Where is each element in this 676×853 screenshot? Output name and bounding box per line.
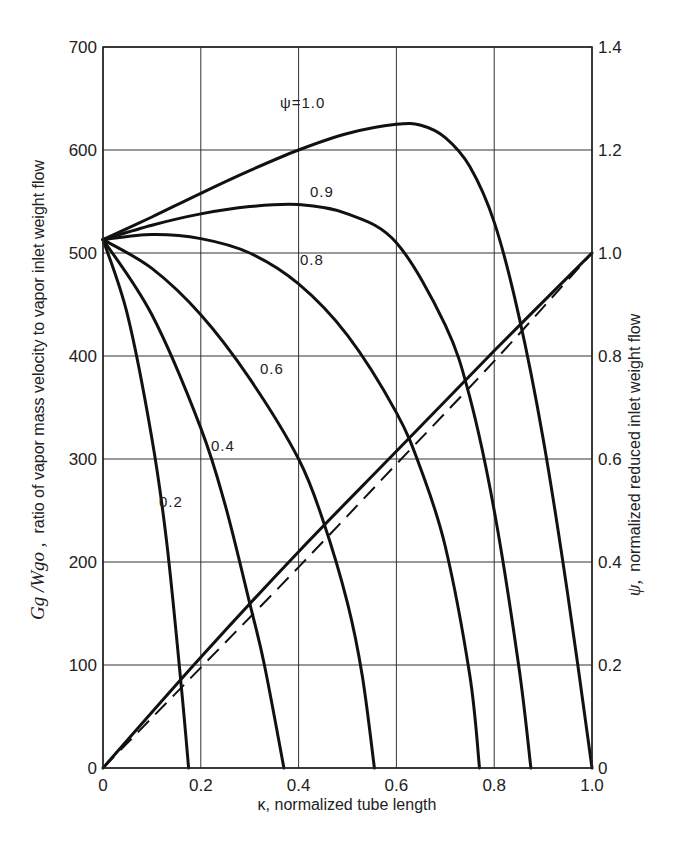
x-tick-label: 1.0 (580, 776, 604, 795)
curve-psi-0-4 (103, 240, 284, 768)
right-y-axis-ticks: 00.20.40.60.81.01.21.4 (598, 38, 622, 778)
left-y-axis-text: ratio of vapor mass velocity to vapor in… (30, 160, 47, 534)
right-y-tick-label: 1.0 (598, 244, 622, 263)
svg-text:Gg /Wgo , ratio of vapor: Gg /Wgo , ratio of vapor mass velocity t… (27, 160, 48, 621)
left-y-tick-label: 400 (69, 347, 97, 366)
left-y-tick-label: 600 (69, 141, 97, 160)
left-y-tick-label: 200 (69, 553, 97, 572)
left-y-tick-label: 100 (69, 656, 97, 675)
left-y-tick-label: 0 (88, 759, 97, 778)
left-y-tick-label: 500 (69, 244, 97, 263)
right-y-tick-label: 0.6 (598, 450, 622, 469)
curve-psi-0-9 (103, 204, 531, 768)
psi-line-solid (103, 253, 592, 768)
right-y-tick-label: 0.4 (598, 553, 622, 572)
left-y-tick-label: 700 (69, 38, 97, 57)
x-tick-label: 0.6 (385, 776, 409, 795)
right-y-axis-text: normalized reduced inlet weight flow (626, 313, 643, 571)
data-curves (103, 123, 592, 768)
right-y-axis-symbol: ψ, (623, 580, 644, 597)
x-tick-label: 0.8 (482, 776, 506, 795)
right-y-tick-label: 1.4 (598, 38, 622, 57)
curve-label: 0.4 (211, 437, 235, 454)
right-y-tick-label: 0 (598, 759, 607, 778)
right-y-tick-label: 0.8 (598, 347, 622, 366)
left-y-axis-title: Gg /Wgo , ratio of vapor mass velocity t… (27, 160, 48, 621)
left-y-axis-math: Gg /Wgo , (27, 542, 48, 620)
left-y-axis-ticks: 0100200300400500600700 (69, 38, 97, 778)
curve-label: ψ=1.0 (280, 94, 325, 111)
x-tick-label: 0.4 (287, 776, 311, 795)
right-y-tick-label: 0.2 (598, 656, 622, 675)
curve-labels: ψ=1.00.90.80.60.40.2 (159, 94, 334, 510)
x-tick-label: 0.2 (189, 776, 213, 795)
curve-label: 0.6 (260, 360, 284, 377)
svg-text:ψ, normalized reduced in: ψ, normalized reduced inlet weight flow (623, 313, 644, 596)
curve-label: 0.8 (300, 251, 324, 268)
left-y-tick-label: 300 (69, 450, 97, 469)
psi-line-dashed (103, 253, 592, 768)
right-y-axis-title: ψ, normalized reduced inlet weight flow (623, 313, 644, 596)
x-tick-label: 0 (98, 776, 107, 795)
curve-label: 0.2 (159, 493, 183, 510)
curve-label: 0.9 (310, 183, 334, 200)
x-axis-title: κ, normalized tube length (258, 796, 437, 813)
chart: 00.20.40.60.81.0 0100200300400500600700 … (0, 0, 676, 853)
right-y-tick-label: 1.2 (598, 141, 622, 160)
x-axis-ticks: 00.20.40.60.81.0 (98, 776, 604, 795)
